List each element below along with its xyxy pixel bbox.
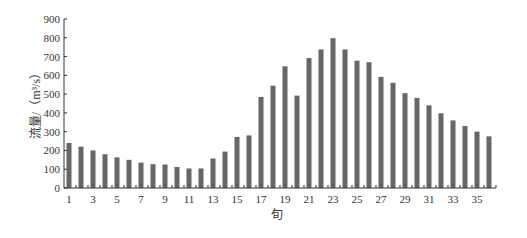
- bar: [487, 136, 492, 188]
- x-axis: 1357911131517192123252729313335: [64, 185, 496, 205]
- x-tick-label: 25: [352, 193, 364, 205]
- bar: [175, 167, 180, 188]
- y-tick-label: 400: [44, 107, 61, 119]
- bar: [403, 93, 408, 188]
- bar: [307, 58, 312, 188]
- bar: [283, 66, 288, 188]
- x-tick-label: 35: [472, 193, 484, 205]
- bar: [475, 132, 480, 188]
- bar: [103, 154, 108, 188]
- y-tick-label: 500: [44, 88, 61, 100]
- bar: [439, 113, 444, 188]
- bar: [355, 61, 360, 188]
- bar: [259, 97, 264, 188]
- y-axis: 0100200300400500600700800900: [44, 13, 68, 194]
- bar: [187, 168, 192, 188]
- bar: [379, 77, 384, 188]
- bar: [91, 150, 96, 188]
- bar: [451, 120, 456, 188]
- x-tick-label: 33: [448, 193, 460, 205]
- x-tick-label: 15: [232, 193, 244, 205]
- bar: [199, 168, 204, 188]
- bar-chart: 0100200300400500600700800900 13579111315…: [0, 0, 527, 238]
- x-tick-label: 29: [400, 193, 412, 205]
- y-tick-label: 900: [44, 13, 61, 25]
- bar: [115, 157, 120, 188]
- x-tick-label: 21: [304, 193, 315, 205]
- bar: [415, 98, 420, 188]
- y-axis-label: 流量/（m³/s）: [29, 67, 43, 139]
- y-tick-label: 100: [44, 163, 61, 175]
- x-tick-label: 27: [376, 193, 388, 205]
- y-tick-label: 800: [44, 32, 61, 44]
- chart-canvas: 0100200300400500600700800900 13579111315…: [0, 0, 527, 238]
- x-tick-label: 17: [256, 193, 268, 205]
- bar: [211, 159, 216, 188]
- x-tick-label: 3: [90, 193, 96, 205]
- bar: [67, 143, 72, 188]
- y-tick-label: 700: [44, 51, 61, 63]
- x-tick-label: 31: [424, 193, 435, 205]
- bar: [79, 147, 84, 188]
- x-tick-label: 23: [328, 193, 340, 205]
- bar: [319, 49, 324, 188]
- y-tick-label: 600: [44, 69, 61, 81]
- bar: [427, 105, 432, 188]
- x-tick-label: 7: [138, 193, 144, 205]
- bar: [139, 163, 144, 188]
- bar: [163, 165, 168, 188]
- x-tick-label: 19: [280, 193, 292, 205]
- x-tick-label: 1: [66, 193, 72, 205]
- x-tick-label: 13: [208, 193, 220, 205]
- bar: [247, 135, 252, 188]
- bars-group: [67, 38, 492, 188]
- x-tick-label: 9: [162, 193, 168, 205]
- x-axis-label: 旬: [271, 208, 283, 222]
- x-tick-label: 11: [184, 193, 195, 205]
- bar: [331, 38, 336, 188]
- bar: [463, 126, 468, 188]
- y-tick-label: 0: [55, 182, 61, 194]
- bar: [223, 152, 228, 188]
- bar: [343, 49, 348, 188]
- x-tick-label: 5: [114, 193, 120, 205]
- bar: [295, 96, 300, 188]
- y-tick-label: 200: [44, 144, 61, 156]
- y-tick-label: 300: [44, 126, 61, 138]
- bar: [127, 160, 132, 188]
- bar: [367, 62, 372, 188]
- bar: [391, 83, 396, 188]
- bar: [271, 86, 276, 188]
- bar: [151, 164, 156, 188]
- bar: [235, 137, 240, 188]
